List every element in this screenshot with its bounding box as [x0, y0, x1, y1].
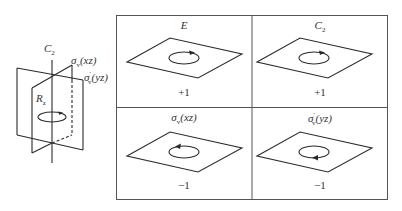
character-value-sigma-v-xz: −1 — [116, 180, 252, 191]
plane-sigma-v-prime-yz — [17, 68, 83, 150]
cell-sigma-v-xz-diagram — [127, 132, 242, 172]
op-arg: (xz) — [180, 111, 197, 123]
plane-label-sigma-v-xz: σv(xz) — [71, 55, 96, 69]
axis-label-c2: C2 — [44, 43, 55, 57]
rotation-label-sub: z — [43, 99, 46, 107]
axis-label-sub: 2 — [51, 49, 55, 57]
cell-e-diagram — [127, 38, 242, 78]
character-value-e: +1 — [116, 87, 252, 98]
plane-label-sigma-v-prime-yz: σ′v(yz) — [84, 71, 108, 86]
plane2-arg: (yz) — [91, 71, 108, 83]
op-symbol: E — [181, 19, 188, 31]
op-symbol: C — [315, 19, 322, 31]
rotation-label-rz: Rz — [36, 93, 46, 107]
cell-title-sigma-v-xz: σv(xz) — [116, 112, 252, 126]
cell-c2-diagram — [257, 38, 372, 78]
character-table-grid — [117, 16, 388, 200]
rotation-label-text: R — [36, 92, 43, 104]
cell-title-e: E — [116, 20, 252, 31]
cell-sigma-v-prime-yz-diagram — [257, 132, 372, 172]
character-value-sigma-v-prime-yz: −1 — [252, 180, 388, 191]
cell-title-sigma-v-prime-yz: σ′v(yz) — [252, 112, 388, 127]
character-value-c2: +1 — [252, 87, 388, 98]
cell-title-c2: C2 — [252, 20, 388, 34]
op-sub: 2 — [322, 26, 326, 34]
plane1-arg: (xz) — [80, 54, 97, 66]
op-arg: (yz) — [315, 112, 332, 124]
